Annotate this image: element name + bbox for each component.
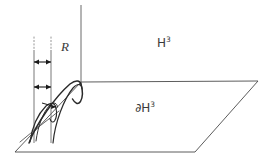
figure-canvas — [0, 0, 273, 165]
measure-arrow-lower — [34, 85, 51, 90]
measure-arrow-upper — [34, 60, 51, 65]
hyperbolic-space-label-base: H — [157, 36, 166, 50]
boundary-label-exponent: 3 — [150, 100, 155, 109]
boundary-label: ∂H3 — [135, 102, 155, 114]
hyperbolic-space-label-exponent: 3 — [166, 35, 171, 44]
boundary-label-base: ∂H — [135, 101, 150, 115]
hyperbolic-space-label: H3 — [157, 37, 171, 49]
geodesic-arc-inner — [53, 85, 82, 143]
hyperbolic-space-figure: R H3 ∂H3 — [0, 0, 273, 165]
radius-label: R — [61, 40, 69, 53]
